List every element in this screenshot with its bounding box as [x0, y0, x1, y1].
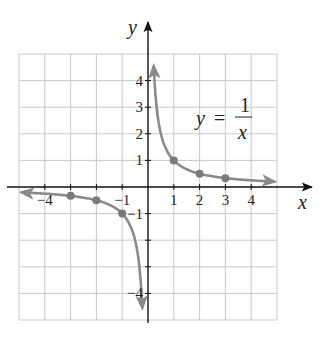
- data-point: [92, 196, 100, 204]
- y-tick-label: −4: [127, 285, 143, 301]
- x-axis-label: x: [297, 191, 307, 213]
- reciprocal-function-graph: −4−112344321−1−4 y = 1 x y x: [0, 0, 327, 338]
- x-tick-label: 3: [222, 192, 230, 208]
- curve-branch: [22, 192, 143, 308]
- y-tick-label: −1: [127, 206, 143, 222]
- data-point: [196, 170, 204, 178]
- equation-denominator: x: [237, 121, 247, 143]
- x-tick-label: 1: [170, 192, 178, 208]
- y-axis-label: y: [126, 16, 137, 39]
- y-tick-label: 3: [136, 99, 144, 115]
- x-tick-label: 4: [247, 192, 255, 208]
- data-point: [170, 156, 178, 164]
- equation-equals: =: [214, 107, 225, 129]
- x-tick-label: −4: [37, 192, 53, 208]
- x-tick-label: 2: [196, 192, 204, 208]
- data-point: [221, 174, 229, 182]
- y-tick-label: 1: [136, 152, 144, 168]
- data-point: [67, 192, 75, 200]
- equation-label: y = 1 x: [194, 94, 252, 143]
- equation-lhs: y: [194, 107, 205, 130]
- y-tick-label: 2: [136, 126, 144, 142]
- equation-numerator: 1: [240, 94, 250, 116]
- axes: [7, 22, 312, 323]
- y-tick-label: 4: [136, 73, 144, 89]
- data-point: [118, 210, 126, 218]
